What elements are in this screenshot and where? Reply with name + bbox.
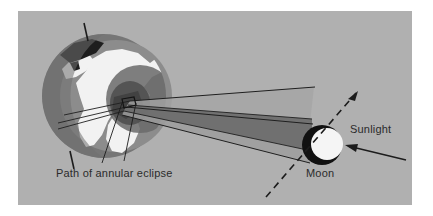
earth-surface-clip (42, 34, 174, 158)
eclipse-diagram-svg: Path of annular eclipse Moon Sunlight (18, 11, 412, 205)
moon-orbit-arrowhead (348, 91, 358, 101)
screenshot-root: Path of annular eclipse Moon Sunlight (0, 0, 433, 216)
moon-label: Moon (306, 167, 334, 179)
sunlight-arrow-group (345, 144, 406, 160)
sunlight-label: Sunlight (350, 123, 391, 135)
eclipse-diagram-panel: Path of annular eclipse Moon Sunlight (18, 11, 412, 205)
sunlight-arrowhead (345, 144, 358, 152)
earth-group (42, 23, 174, 169)
path-of-annular-eclipse-label: Path of annular eclipse (56, 167, 173, 179)
moon-lit-disc (311, 128, 343, 160)
